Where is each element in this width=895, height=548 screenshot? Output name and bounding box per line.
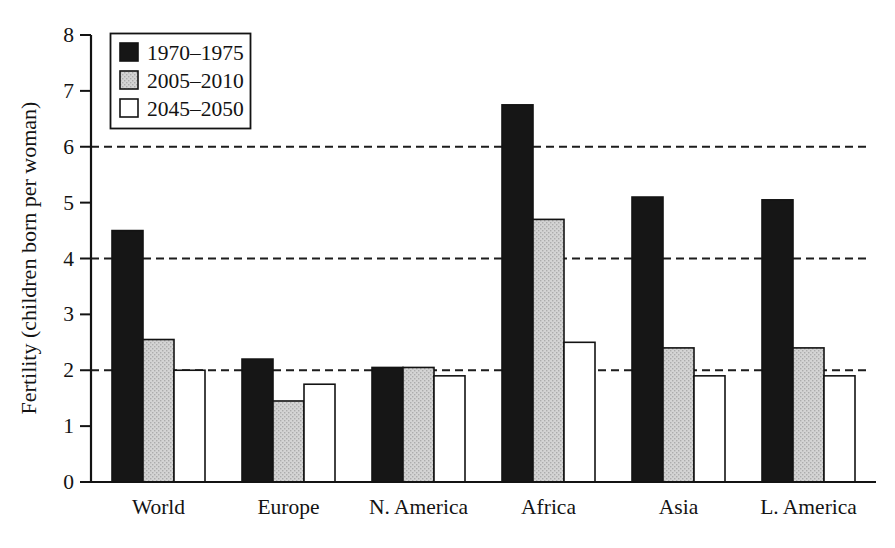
bar-europe-1970-1975 (242, 359, 273, 482)
y-tick-label: 5 (63, 191, 74, 215)
legend-label: 1970–1975 (147, 41, 244, 65)
x-category-label: L. America (760, 495, 857, 519)
bar-africa-2005-2010 (533, 219, 564, 482)
y-tick-label: 7 (63, 79, 74, 103)
y-tick-label: 0 (63, 470, 74, 494)
chart-canvas: WorldEuropeN. AmericaAfricaAsiaL. Americ… (0, 0, 895, 548)
y-axis-title: Fertility (children born per woman) (16, 102, 41, 415)
y-tick-label: 1 (63, 414, 74, 438)
y-tick-label: 8 (63, 23, 74, 47)
legend-label: 2045–2050 (147, 97, 244, 121)
bar-world-1970-1975 (112, 231, 143, 482)
bar-asia-2005-2010 (663, 348, 694, 482)
x-category-label: World (132, 495, 185, 519)
legend-swatch-0 (120, 43, 138, 61)
bar-l-america-2045-2050 (824, 376, 855, 482)
bar-africa-2045-2050 (564, 342, 595, 482)
bar-world-2045-2050 (174, 370, 205, 482)
bar-l-america-2005-2010 (793, 348, 824, 482)
fertility-bar-chart: WorldEuropeN. AmericaAfricaAsiaL. Americ… (0, 0, 895, 548)
y-tick-label: 3 (63, 302, 74, 326)
bar-africa-1970-1975 (502, 105, 533, 482)
bar-asia-2045-2050 (694, 376, 725, 482)
x-category-label: Asia (659, 495, 699, 519)
bar-l-america-1970-1975 (762, 200, 793, 482)
bar-europe-2005-2010 (273, 401, 304, 482)
bar-n-america-2005-2010 (403, 367, 434, 482)
legend-swatch-2 (120, 99, 138, 117)
bar-n-america-1970-1975 (372, 367, 403, 482)
bar-asia-1970-1975 (632, 197, 663, 482)
y-tick-label: 6 (63, 135, 74, 159)
bar-europe-2045-2050 (304, 384, 335, 482)
y-tick-label: 2 (63, 358, 74, 382)
legend-label: 2005–2010 (147, 69, 244, 93)
x-category-label: N. America (369, 495, 469, 519)
bar-world-2005-2010 (143, 340, 174, 482)
x-category-label: Africa (521, 495, 576, 519)
x-category-label: Europe (257, 495, 319, 519)
legend-swatch-1 (120, 71, 138, 89)
legend: 1970–19752005–20102045–2050 (111, 34, 251, 129)
y-tick-label: 4 (63, 247, 74, 271)
bar-n-america-2045-2050 (434, 376, 465, 482)
